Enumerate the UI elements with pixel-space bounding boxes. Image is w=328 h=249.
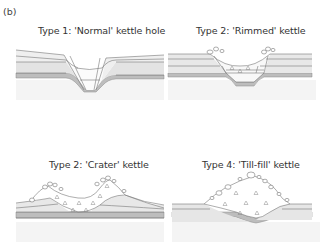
diagram-type2-crater (16, 176, 164, 242)
kettle-diagram (0, 0, 328, 249)
diagram-type2-rimmed (168, 47, 316, 100)
diagram-type1 (16, 50, 164, 100)
diagram-type4 (172, 172, 320, 242)
